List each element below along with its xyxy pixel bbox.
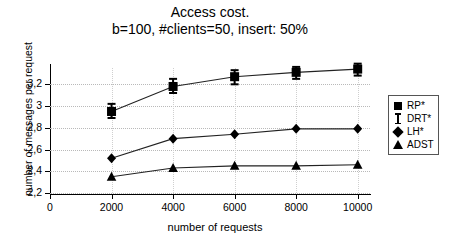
y-axis-title: number of messages per request: [22, 29, 34, 209]
x-axis-title: number of requests: [90, 221, 340, 233]
legend-item-drt: DRT*: [392, 112, 434, 125]
x-tick-label: 6000: [205, 201, 265, 213]
legend-label: ADST: [406, 139, 434, 150]
chart-title: Access cost.: [60, 4, 360, 21]
diamond-marker-icon: [392, 125, 406, 138]
y-tick-label: 2,6: [0, 144, 42, 154]
marker-triangle: [353, 160, 363, 169]
x-tick-label: 8000: [266, 201, 326, 213]
marker-diamond: [353, 124, 362, 134]
y-tick-label: 2,4: [0, 165, 42, 175]
x-tick-label: 0: [20, 201, 80, 213]
x-tick-label: 10000: [328, 201, 388, 213]
legend-item-rp: RP*: [392, 99, 434, 112]
errorbar-marker-icon: [392, 112, 406, 125]
legend-label: DRT*: [406, 113, 431, 124]
chart-subtitle: b=100, #clients=50, insert: 50%: [60, 21, 360, 38]
legend-item-lh: LH*: [392, 125, 434, 138]
marker-diamond: [230, 129, 239, 139]
y-tick-label: 3: [0, 100, 42, 110]
gridline-horizontal: [50, 193, 370, 195]
x-tick-label: 4000: [143, 201, 203, 213]
y-tick-label: 2,8: [0, 122, 42, 132]
legend-label: RP*: [406, 100, 425, 111]
x-tick-label: 2000: [82, 201, 142, 213]
y-tick-label: 2,2: [0, 187, 42, 197]
y-tick-label: 3,2: [0, 78, 42, 88]
marker-diamond: [107, 153, 116, 163]
marker-diamond: [169, 134, 178, 144]
chart-legend: RP* DRT* LH* ADST: [388, 95, 439, 155]
chart-title-block: Access cost. b=100, #clients=50, insert:…: [60, 4, 360, 38]
legend-item-adst: ADST: [392, 138, 434, 151]
series-layer: [50, 68, 370, 193]
plot-area: [50, 68, 370, 193]
chart-figure: Access cost. b=100, #clients=50, insert:…: [0, 0, 458, 243]
marker-diamond: [292, 124, 301, 134]
legend-label: LH*: [406, 126, 424, 137]
triangle-marker-icon: [392, 138, 406, 151]
square-marker-icon: [392, 99, 406, 112]
